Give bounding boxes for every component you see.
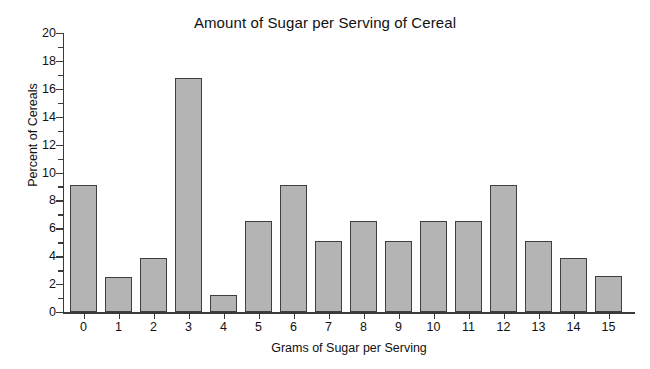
y-tick-label: 8 [22, 194, 56, 207]
y-axis-tick-labels: 02468101214161820 [22, 33, 56, 312]
x-tick-label: 2 [134, 320, 174, 334]
x-tick-label: 13 [519, 320, 559, 334]
x-tick-label: 10 [414, 320, 454, 334]
histogram-bar [140, 258, 167, 312]
x-tick-mark [329, 313, 330, 319]
x-tick-mark [189, 313, 190, 319]
x-tick-mark [119, 313, 120, 319]
y-tick-mark-major [56, 173, 64, 174]
histogram-bar [210, 295, 237, 312]
histogram-bar [490, 185, 517, 312]
y-tick-mark-major [56, 284, 64, 285]
histogram-bar [315, 241, 342, 312]
histogram-bar [455, 221, 482, 312]
x-tick-mark [294, 313, 295, 319]
x-tick-label: 5 [239, 320, 279, 334]
x-tick-mark [504, 313, 505, 319]
y-tick-mark-minor [58, 298, 64, 299]
y-tick-mark-major [56, 33, 64, 34]
histogram-figure: Amount of Sugar per Serving of Cereal Pe… [0, 0, 650, 369]
y-tick-label: 14 [22, 110, 56, 123]
x-tick-mark [154, 313, 155, 319]
histogram-bar [385, 241, 412, 312]
histogram-bar [420, 221, 447, 312]
x-tick-label: 0 [64, 320, 104, 334]
y-tick-label: 4 [22, 250, 56, 263]
y-tick-mark-major [56, 117, 64, 118]
histogram-bar [70, 185, 97, 312]
x-tick-label: 4 [204, 320, 244, 334]
y-tick-mark-major [56, 61, 64, 62]
x-tick-mark [469, 313, 470, 319]
x-axis-line [63, 312, 635, 314]
chart-title: Amount of Sugar per Serving of Cereal [0, 14, 650, 31]
y-tick-mark-major [56, 312, 64, 313]
y-tick-label: 18 [22, 55, 56, 68]
y-tick-mark-minor [58, 131, 64, 132]
y-tick-label: 20 [22, 27, 56, 40]
x-axis-label: Grams of Sugar per Serving [64, 341, 634, 355]
y-tick-mark-minor [58, 47, 64, 48]
x-tick-label: 15 [589, 320, 629, 334]
y-tick-mark-major [56, 200, 64, 201]
histogram-bar [560, 258, 587, 312]
histogram-bar [280, 185, 307, 312]
x-tick-label: 1 [99, 320, 139, 334]
x-tick-mark [224, 313, 225, 319]
y-tick-label: 12 [22, 138, 56, 151]
x-tick-mark [574, 313, 575, 319]
plot-area [64, 33, 634, 312]
x-tick-mark [539, 313, 540, 319]
y-tick-mark-major [56, 89, 64, 90]
x-tick-mark [364, 313, 365, 319]
x-tick-label: 12 [484, 320, 524, 334]
y-tick-label: 6 [22, 222, 56, 235]
histogram-bar [175, 78, 202, 312]
y-tick-label: 10 [22, 166, 56, 179]
x-tick-label: 9 [379, 320, 419, 334]
x-tick-mark [434, 313, 435, 319]
y-tick-mark-major [56, 145, 64, 146]
x-tick-mark [399, 313, 400, 319]
histogram-bar [595, 276, 622, 312]
x-tick-mark [609, 313, 610, 319]
x-tick-label: 14 [554, 320, 594, 334]
y-tick-mark-minor [58, 75, 64, 76]
x-tick-label: 8 [344, 320, 384, 334]
y-tick-mark-minor [58, 186, 64, 187]
histogram-bar [105, 277, 132, 312]
y-tick-mark-minor [58, 242, 64, 243]
y-tick-label: 0 [22, 306, 56, 319]
y-tick-label: 2 [22, 278, 56, 291]
x-tick-mark [259, 313, 260, 319]
x-tick-label: 7 [309, 320, 349, 334]
x-tick-label: 6 [274, 320, 314, 334]
y-tick-mark-major [56, 256, 64, 257]
y-tick-label: 16 [22, 83, 56, 96]
x-tick-label: 3 [169, 320, 209, 334]
x-tick-mark [84, 313, 85, 319]
y-tick-mark-minor [58, 270, 64, 271]
y-tick-mark-minor [58, 103, 64, 104]
histogram-bar [350, 221, 377, 312]
histogram-bar [245, 221, 272, 312]
y-tick-mark-major [56, 228, 64, 229]
x-tick-label: 11 [449, 320, 489, 334]
histogram-bar [525, 241, 552, 312]
y-tick-mark-minor [58, 159, 64, 160]
y-tick-mark-minor [58, 214, 64, 215]
